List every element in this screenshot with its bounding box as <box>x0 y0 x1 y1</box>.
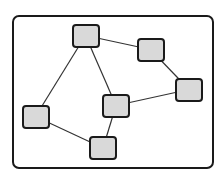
graph-node-n3 <box>175 78 203 102</box>
graph-node-n4 <box>102 94 130 118</box>
graph-node-n6 <box>89 136 117 160</box>
graph-node-n2 <box>137 38 165 62</box>
graph-node-n1 <box>72 24 100 48</box>
graph-node-n5 <box>22 105 50 129</box>
